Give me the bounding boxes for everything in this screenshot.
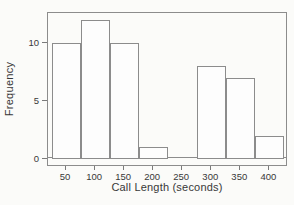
histogram-bar — [81, 20, 110, 159]
histogram-bar — [197, 66, 226, 159]
histogram-bar — [110, 43, 139, 159]
y-tick-label: 5 — [20, 95, 39, 106]
histogram-bar — [255, 136, 284, 159]
x-tick-mark — [123, 166, 124, 170]
x-tick-mark — [94, 166, 95, 170]
histogram-bar — [226, 78, 255, 159]
x-tick-mark — [65, 166, 66, 170]
y-tick-mark — [42, 100, 47, 101]
y-axis-label: Frequency — [3, 44, 15, 134]
y-tick-label: 10 — [20, 37, 39, 48]
x-tick-mark — [210, 166, 211, 170]
y-tick-label: 0 — [20, 153, 39, 164]
y-tick-mark — [42, 42, 47, 43]
y-tick-mark — [42, 158, 47, 159]
histogram-bar — [52, 43, 81, 159]
plot-area — [47, 12, 287, 166]
histogram-figure: Frequency 501001502002503003504000510 Ca… — [0, 0, 294, 205]
x-axis-label: Call Length (seconds) — [47, 181, 287, 193]
x-tick-mark — [181, 166, 182, 170]
x-tick-mark — [239, 166, 240, 170]
x-tick-mark — [268, 166, 269, 170]
histogram-bar — [139, 147, 168, 159]
x-tick-mark — [152, 166, 153, 170]
